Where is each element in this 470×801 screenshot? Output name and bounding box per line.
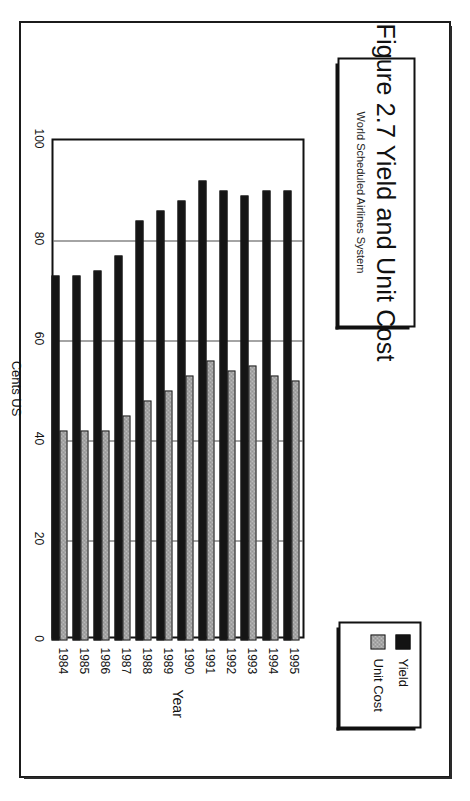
category-axis-tick: 1995 [286,647,300,674]
gray-hatched-square-icon [370,634,385,649]
bar-yield [198,180,206,640]
category-axis-tick: 1986 [97,647,111,674]
legend-item-yield: Yield [395,634,410,715]
category-axis-tick: 1992 [223,647,237,674]
bar-unit-cost [185,375,193,640]
bar-yield [135,220,143,640]
bar-unit-cost [227,370,235,640]
legend-item-unit-cost: Unit Cost [370,634,385,715]
category-axis-tick: 1984 [55,647,69,674]
value-axis-tick: 100 [31,128,45,148]
bar-yield [177,200,185,640]
category-axis-tick: 1988 [139,647,153,674]
bar-yield [283,190,291,640]
value-axis-tick: 80 [31,231,45,244]
bar-unit-cost [270,375,278,640]
category-axis-tick: 1993 [244,647,258,674]
bar-unit-cost [291,380,299,640]
bar-unit-cost [59,430,67,640]
category-axis-title: Year [51,689,304,717]
category-axis-tick: 1985 [76,647,90,674]
bar-yield [240,195,248,640]
value-axis-tick: 60 [31,331,45,344]
category-axis-tick: 1991 [202,647,216,674]
legend-label-yield: Yield [395,658,410,686]
bar-unit-cost [248,365,256,640]
rotated-figure-stage: Figure 2.7 Yield and Unit Cost World Sch… [19,21,451,778]
category-axis-tick: 1994 [265,647,279,674]
category-axis-tick: 1990 [181,647,195,674]
chart-legend: Yield Unit Cost [338,621,421,728]
bar-unit-cost [143,400,151,640]
plot-area [51,138,304,638]
value-axis-tick: 40 [31,431,45,444]
black-square-icon [395,634,410,649]
figure-page: Figure 2.7 Yield and Unit Cost World Sch… [0,0,470,801]
bar-yield [262,190,270,640]
title-box: Figure 2.7 Yield and Unit Cost World Sch… [337,57,415,327]
category-axis-tick: 1987 [118,647,132,674]
bar-unit-cost [206,360,214,640]
bar-yield [219,190,227,640]
bar-yield [72,275,80,640]
bar-yield [114,255,122,640]
page-title: Figure 2.7 Yield and Unit Cost [372,23,399,361]
bar-unit-cost [164,390,172,640]
value-axis-title: Cents US [8,138,23,638]
bar-yield [51,275,59,640]
figure-subtitle: World Scheduled Airlines System [354,111,366,273]
legend-label-unit-cost: Unit Cost [370,658,385,711]
page-border: Figure 2.7 Yield and Unit Cost World Sch… [19,21,451,778]
bar-yield [93,270,101,640]
bar-unit-cost [80,430,88,640]
category-axis-tick: 1989 [160,647,174,674]
value-axis-tick: 20 [31,531,45,544]
bar-unit-cost [101,430,109,640]
bar-yield [156,210,164,640]
value-axis-tick: 0 [31,635,45,642]
bar-unit-cost [122,415,130,640]
